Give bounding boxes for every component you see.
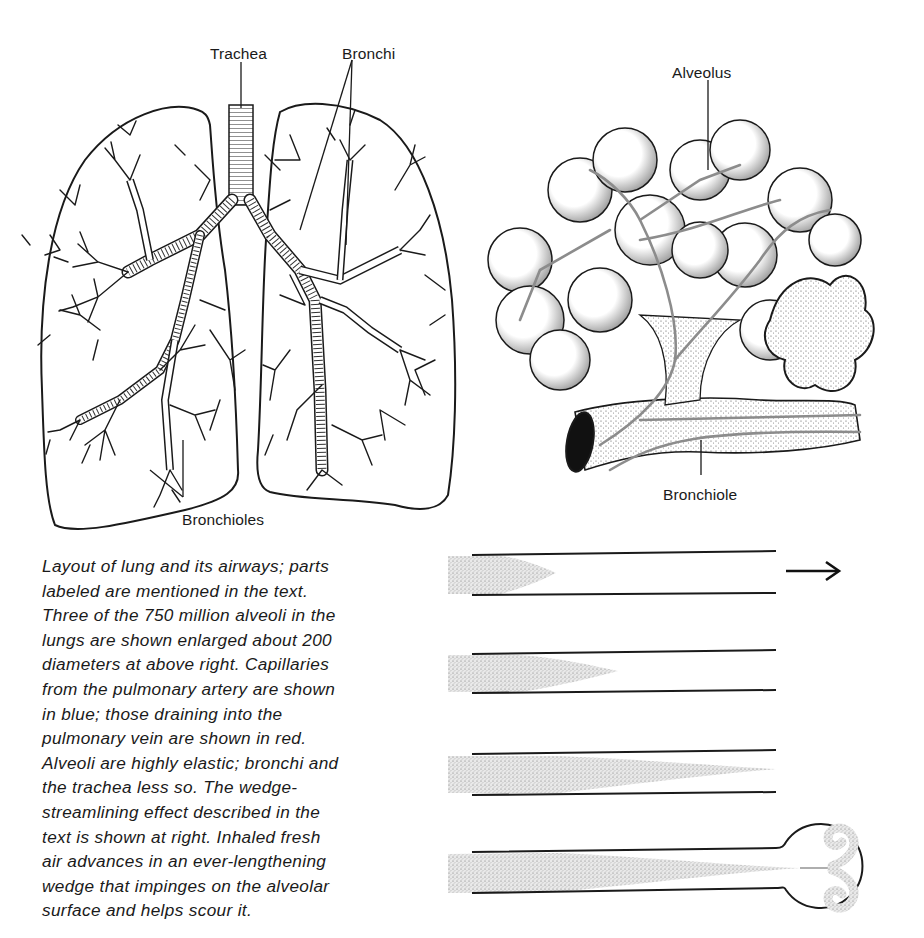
caption-line: wedge that impinges on the alveolar: [42, 874, 442, 899]
lung-diagram: Trachea Bronchi Bronchioles: [0, 0, 470, 540]
caption-line: Layout of lung and its airways; parts: [42, 554, 442, 579]
bronchiole-label: Bronchiole: [663, 486, 737, 504]
alveoli-diagram: Alveolus Bronchiole: [470, 0, 924, 540]
bronchioles-label: Bronchioles: [182, 511, 264, 529]
caption-line: lungs are shown enlarged about 200: [42, 628, 442, 653]
figure-caption: Layout of lung and its airways; parts la…: [42, 554, 442, 923]
wedge-stage-3: [448, 750, 776, 795]
caption-line: air advances in an ever-lengthening: [42, 849, 442, 874]
caption-line: from the pulmonary artery are shown: [42, 677, 442, 702]
caption-line: Alveoli are highly elastic; bronchi and: [42, 751, 442, 776]
caption-line: surface and helps scour it.: [42, 898, 442, 923]
caption-line: diameters at above right. Capillaries: [42, 652, 442, 677]
caption-line: in blue; those draining into the: [42, 702, 442, 727]
caption-line: Three of the 750 million alveoli in the: [42, 603, 442, 628]
flow-arrow-icon: [786, 562, 839, 580]
caption-line: labeled are mentioned in the text.: [42, 579, 442, 604]
bronchi-label: Bronchi: [342, 45, 395, 63]
caption-line: the trachea less so. The wedge-: [42, 775, 442, 800]
wedge-stage-1: [448, 551, 776, 595]
caption-line: streamlining effect described in the: [42, 800, 442, 825]
wedge-stage-4: [448, 824, 862, 908]
alveolus-label: Alveolus: [672, 64, 731, 82]
caption-line: pulmonary vein are shown in red.: [42, 726, 442, 751]
trachea-label: Trachea: [210, 45, 267, 63]
wedge-stage-2: [448, 650, 776, 693]
caption-line: text is shown at right. Inhaled fresh: [42, 825, 442, 850]
lung-illustration: [0, 0, 470, 540]
wedge-streamlining-diagram: [440, 540, 924, 938]
